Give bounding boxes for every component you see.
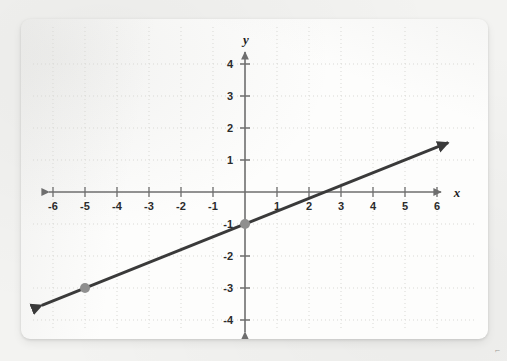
y-tick-label-3: 3 (227, 90, 233, 102)
x-tick-label-6: 6 (434, 200, 440, 212)
coordinate-plane: -6 -5 -4 -3 -2 -1 1 2 3 4 5 6 4 3 2 1 -1… (21, 19, 488, 339)
x-tick-label--1: -1 (208, 200, 218, 212)
x-tick-label-4: 4 (370, 200, 377, 212)
corner-mark: ⌐ (495, 346, 502, 355)
grid-lines (33, 27, 476, 331)
x-tick-label--6: -6 (48, 200, 58, 212)
x-tick-label--3: -3 (144, 200, 154, 212)
point-y-intercept (240, 219, 250, 229)
x-tick-label--4: -4 (112, 200, 123, 212)
y-tick-label-4: 4 (227, 58, 234, 70)
y-tick-label-1: 1 (227, 154, 233, 166)
y-tick-label--3: -3 (223, 282, 233, 294)
y-tick-label-2: 2 (227, 122, 233, 134)
y-axis-label: y (241, 32, 249, 47)
x-tick-label-5: 5 (402, 200, 408, 212)
x-tick-label-2: 2 (306, 200, 312, 212)
x-tick-label--5: -5 (80, 200, 90, 212)
x-axis-label: x (453, 185, 461, 200)
y-tick-label--2: -2 (223, 250, 233, 262)
graph-card: -6 -5 -4 -3 -2 -1 1 2 3 4 5 6 4 3 2 1 -1… (21, 19, 488, 339)
point-second (80, 283, 90, 293)
x-tick-label-3: 3 (338, 200, 344, 212)
page-root: -6 -5 -4 -3 -2 -1 1 2 3 4 5 6 4 3 2 1 -1… (0, 0, 507, 361)
x-tick-label--2: -2 (176, 200, 186, 212)
y-tick-label--4: -4 (223, 314, 234, 326)
